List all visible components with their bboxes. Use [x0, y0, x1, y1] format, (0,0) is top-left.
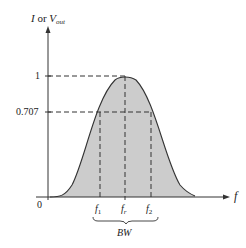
y-label-V-sub: out: [56, 18, 65, 26]
y-axis-arrow-icon: [46, 26, 51, 33]
y-axis-label: I or Vout: [31, 13, 65, 26]
x-axis-label: f: [234, 190, 237, 202]
bandwidth-brace: [93, 217, 158, 224]
x-axis-arrow-icon: [223, 195, 230, 200]
y-label-or: or: [37, 12, 46, 24]
y-label-I: I: [31, 12, 35, 24]
response-area: [50, 77, 195, 197]
f2-label: f2: [146, 204, 152, 216]
origin-label: 0: [37, 200, 42, 210]
fr-label: fr: [121, 204, 127, 216]
bandwidth-label: BW: [117, 228, 131, 238]
tick-label-1: 1: [35, 71, 40, 81]
f1-label: f1: [95, 204, 101, 216]
tick-label-0707: 0.707: [16, 107, 39, 117]
